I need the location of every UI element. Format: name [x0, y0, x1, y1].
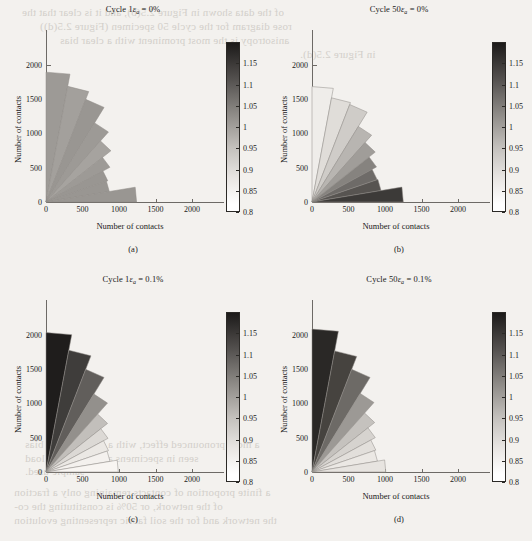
colorbar-tick	[502, 333, 505, 334]
panel-d: Cycle 50εa = 0.1%05001000150020000500100…	[266, 270, 532, 541]
colorbar-tick	[502, 170, 505, 171]
colorbar-tick-label: 1.05	[243, 371, 257, 380]
colorbar-tick-label: 0.95	[509, 144, 523, 153]
colorbar-tick	[236, 191, 239, 192]
colorbar-tick-label: 1.05	[243, 101, 257, 110]
colorbar-tick	[502, 106, 505, 107]
colorbar-tick-label: 0.85	[243, 186, 257, 195]
colorbar-tick-label: 0.9	[243, 435, 253, 444]
colorbar-tick	[236, 63, 239, 64]
panel-letter-label: (b)	[266, 244, 532, 254]
panel-letter-label: (a)	[0, 244, 266, 254]
colorbar-tick	[502, 482, 505, 483]
colorbar-tick-label: 0.9	[509, 165, 519, 174]
colorbar-tick-label: 0.85	[509, 186, 523, 195]
colorbar-tick-label: 0.8	[509, 478, 519, 487]
colorbar-tick-label: 1.1	[243, 350, 253, 359]
colorbar-tick	[502, 397, 505, 398]
panel-b: Cycle 50εa = 0%0500100015002000050010001…	[266, 0, 532, 270]
colorbar-tick-label: 1	[243, 123, 247, 132]
colorbar-tick-label: 1.15	[509, 59, 523, 68]
colorbar-tick-label: 0.9	[509, 435, 519, 444]
figure-panel-grid: Cycle 1εa = 0%05001000150020000500100015…	[0, 0, 532, 541]
colorbar-tick	[236, 170, 239, 171]
colorbar-tick	[236, 461, 239, 462]
colorbar-tick	[502, 127, 505, 128]
colorbar-tick	[502, 440, 505, 441]
colorbar-tick	[236, 333, 239, 334]
colorbar-tick	[236, 106, 239, 107]
colorbar-tick-label: 0.95	[243, 414, 257, 423]
panel-c: Cycle 1εa = 0.1%050010001500200005001000…	[0, 270, 266, 541]
colorbar-tick-label: 0.9	[243, 165, 253, 174]
colorbar-tick-label: 0.85	[509, 456, 523, 465]
colorbar-tick-label: 1.05	[509, 101, 523, 110]
colorbar-tick-label: 1.1	[243, 80, 253, 89]
colorbar-tick-label: 1.05	[509, 371, 523, 380]
colorbar-tick	[236, 127, 239, 128]
colorbar-tick	[236, 418, 239, 419]
colorbar-tick	[236, 397, 239, 398]
colorbar-tick	[502, 355, 505, 356]
colorbar-tick-label: 1.15	[243, 329, 257, 338]
colorbar-tick-label: 1	[243, 393, 247, 402]
colorbar-tick	[502, 148, 505, 149]
colorbar-tick-label: 1	[509, 393, 513, 402]
colorbar-tick	[236, 148, 239, 149]
colorbar-tick-label: 1.1	[509, 350, 519, 359]
colorbar-tick-label: 0.8	[243, 478, 253, 487]
panel-a: Cycle 1εa = 0%05001000150020000500100015…	[0, 0, 266, 270]
colorbar-tick-label: 0.95	[243, 144, 257, 153]
colorbar-tick-label: 0.85	[243, 456, 257, 465]
colorbar-tick	[502, 461, 505, 462]
colorbar-tick	[502, 191, 505, 192]
colorbar-tick	[236, 482, 239, 483]
colorbar-tick-label: 1	[509, 123, 513, 132]
colorbar-tick	[502, 85, 505, 86]
colorbar-tick-label: 1.15	[243, 59, 257, 68]
colorbar-tick	[502, 212, 505, 213]
colorbar-tick	[236, 376, 239, 377]
colorbar-tick-label: 0.8	[509, 208, 519, 217]
colorbar-tick-label: 1.1	[509, 80, 519, 89]
colorbar-tick	[236, 85, 239, 86]
colorbar-tick-label: 1.15	[509, 329, 523, 338]
panel-letter-label: (d)	[266, 514, 532, 524]
colorbar-tick	[236, 212, 239, 213]
colorbar-tick	[502, 418, 505, 419]
colorbar-tick-label: 0.95	[509, 414, 523, 423]
colorbar-tick-label: 0.8	[243, 208, 253, 217]
colorbar-tick	[236, 440, 239, 441]
colorbar-tick	[502, 63, 505, 64]
colorbar-tick	[502, 376, 505, 377]
colorbar-tick	[236, 355, 239, 356]
panel-letter-label: (c)	[0, 514, 266, 524]
